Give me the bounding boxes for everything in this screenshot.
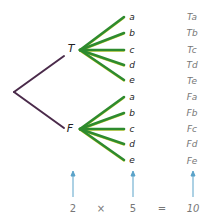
leaf-label: b: [129, 108, 135, 118]
branch-F-d: [80, 129, 124, 144]
arrow-up-icon: [131, 171, 135, 197]
outcome-label: Te: [187, 76, 197, 86]
outcome-label: Fa: [187, 92, 198, 102]
outcome-label: Fb: [187, 108, 198, 118]
leaf-label: c: [130, 124, 135, 134]
equation-factor-1: 2: [70, 203, 76, 214]
node-label-T: T: [68, 44, 75, 54]
arrow-up-icon: [191, 171, 195, 197]
times-sign: ×: [97, 203, 105, 214]
outcome-label: Fc: [187, 124, 197, 134]
leaf-label: e: [129, 155, 135, 165]
outcome-label: Td: [186, 60, 197, 70]
node-label-F: F: [67, 124, 73, 134]
branch-F-a: [80, 97, 124, 129]
equals-sign: =: [158, 203, 166, 214]
leaf-label: d: [129, 60, 135, 70]
leaf-label: e: [129, 75, 135, 85]
leaf-label: d: [129, 139, 135, 149]
outcome-label: Fe: [187, 156, 198, 166]
branch-T-e: [80, 50, 124, 80]
branch-root-to-T: [14, 56, 64, 92]
equation-factor-2: 5: [130, 203, 136, 214]
branch-T-a: [80, 17, 124, 50]
branch-root-to-F: [14, 92, 64, 128]
leaf-label: c: [130, 45, 135, 55]
leaf-label: a: [129, 92, 135, 102]
leaf-label: b: [129, 28, 135, 38]
root-branches: [14, 56, 64, 128]
F-leaf-branches: [80, 97, 124, 161]
count-arrows: [71, 171, 195, 197]
outcome-label: Tb: [186, 28, 197, 38]
arrow-up-icon: [71, 171, 75, 197]
branch-T-b: [80, 33, 124, 50]
branch-F-b: [80, 113, 124, 129]
outcome-label: Tc: [187, 45, 196, 55]
outcome-label: Ta: [187, 12, 197, 22]
tree-lines: [0, 0, 218, 218]
branch-F-e: [80, 129, 124, 160]
outcome-label: Fd: [187, 139, 198, 149]
T-leaf-branches: [80, 17, 124, 81]
branch-T-d: [80, 50, 124, 65]
equation-product: 10: [187, 203, 200, 214]
leaf-label: a: [129, 12, 135, 22]
